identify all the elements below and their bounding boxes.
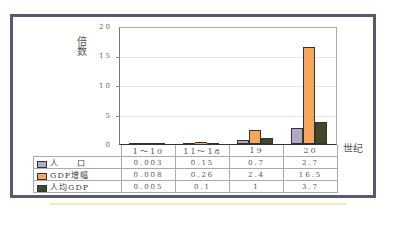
- legend-swatch-icon: [37, 161, 47, 168]
- bar: [195, 142, 207, 144]
- table-cell: 0.005: [122, 181, 176, 193]
- table-cell: 2.4: [230, 169, 284, 181]
- series-row-gdp-per-capita: 人均GDP 0.005 0.1 1 3.7: [34, 181, 338, 193]
- bar: [153, 143, 165, 144]
- table-cell: 3.7: [284, 181, 338, 193]
- table-cell: 0.26: [176, 169, 230, 181]
- legend-entry-gdp-growth: GDP增幅: [34, 169, 122, 181]
- y-tick-20: 20: [92, 23, 112, 31]
- tick-mark: [116, 86, 120, 87]
- table-cell: 16.5: [284, 169, 338, 181]
- y-tick-10: 10: [92, 82, 112, 90]
- category-row: 1～10 11～18 19 20: [34, 145, 338, 157]
- x-axis-label: 世纪: [343, 140, 363, 155]
- y-axis-label: 倍数: [72, 36, 86, 56]
- legend-label: GDP增幅: [50, 171, 89, 180]
- legend-entry-population: 人 口: [34, 157, 122, 169]
- category-label: 11～18: [176, 145, 230, 157]
- bar: [141, 143, 153, 144]
- bar: [291, 128, 303, 144]
- legend-swatch-icon: [37, 173, 47, 180]
- table-cell: 1: [230, 181, 284, 193]
- data-table: 1～10 11～18 19 20 人 口 0.003 0.15 0.7 2.7 …: [33, 145, 338, 193]
- y-tick-15: 15: [92, 52, 112, 60]
- series-row-gdp-growth: GDP增幅 0.008 0.26 2.4 16.5: [34, 169, 338, 181]
- y-tick-5: 5: [92, 112, 112, 120]
- bar: [183, 143, 195, 144]
- legend-label: 人 口: [50, 159, 86, 168]
- category-label: 20: [284, 145, 338, 157]
- table-cell: 0.003: [122, 157, 176, 169]
- table-cell: 0.7: [230, 157, 284, 169]
- legend-label: 人均GDP: [50, 183, 89, 192]
- legend-swatch-icon: [37, 185, 47, 192]
- table-cell: 0.15: [176, 157, 230, 169]
- bar: [261, 138, 273, 144]
- table-cell: 2.7: [284, 157, 338, 169]
- table-cell: 0.008: [122, 169, 176, 181]
- legend-entry-gdp-per-capita: 人均GDP: [34, 181, 122, 193]
- decorative-underline: [50, 203, 347, 205]
- bar: [129, 143, 141, 144]
- bar: [303, 47, 315, 144]
- category-label: 1～10: [122, 145, 176, 157]
- tick-mark: [116, 57, 120, 58]
- series-row-population: 人 口 0.003 0.15 0.7 2.7: [34, 157, 338, 169]
- table-cell: 0.1: [176, 181, 230, 193]
- bar: [315, 122, 327, 144]
- bar: [237, 140, 249, 144]
- table-corner: [34, 145, 122, 157]
- tick-mark: [116, 116, 120, 117]
- bar: [207, 143, 219, 144]
- category-label: 19: [230, 145, 284, 157]
- bar: [249, 130, 261, 144]
- plot-area: [119, 27, 337, 145]
